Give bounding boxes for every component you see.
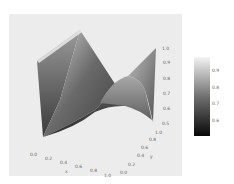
- z-tick-0.7: 0.7: [163, 91, 170, 96]
- x-tick-0.0: 0.0: [30, 152, 37, 157]
- y-tick-0.0: 0.0: [120, 170, 127, 175]
- y-tick-0.2: 0.2: [128, 162, 135, 167]
- y-tick-0.8: 0.8: [149, 137, 156, 142]
- z-tick-1.0: 1.0: [162, 46, 169, 51]
- surface: [37, 30, 156, 137]
- colorbar: 0.9 0.8 0.7 0.6: [194, 57, 219, 136]
- z-axis: 1.0 0.9 0.8 0.7 0.6 0.5: [162, 46, 170, 126]
- y-axis-label: y: [150, 154, 153, 159]
- colorbar-tick-0.6: 0.6: [212, 118, 219, 123]
- x-tick-1.0: 1.0: [104, 173, 111, 178]
- z-tick-0.9: 0.9: [163, 60, 170, 65]
- colorbar-gradient: [194, 57, 210, 136]
- colorbar-tick-0.7: 0.7: [212, 101, 219, 106]
- z-tick-0.8: 0.8: [163, 76, 170, 81]
- colorbar-tick-0.9: 0.9: [212, 68, 219, 73]
- y-tick-0.4: 0.4: [137, 153, 144, 158]
- y-tick-0.6: 0.6: [141, 145, 148, 150]
- x-tick-0.2: 0.2: [45, 156, 52, 161]
- z-tick-0.6: 0.6: [163, 106, 170, 111]
- x-axis-label: x: [65, 169, 68, 174]
- z-tick-0.5: 0.5: [162, 121, 169, 126]
- y-tick-1.0: 1.0: [155, 130, 162, 135]
- surface-plot: 1.0 0.9 0.8 0.7 0.6 0.5 0.0 0.2 0.4 0.6 …: [0, 0, 234, 184]
- colorbar-tick-0.8: 0.8: [212, 85, 219, 90]
- x-tick-0.6: 0.6: [75, 164, 82, 169]
- x-tick-0.8: 0.8: [90, 168, 97, 173]
- y-axis: 0.0 0.2 0.4 0.6 0.8 1.0 y: [120, 130, 162, 175]
- x-axis: 0.0 0.2 0.4 0.6 0.8 1.0 x: [30, 152, 111, 178]
- x-tick-0.4: 0.4: [60, 160, 67, 165]
